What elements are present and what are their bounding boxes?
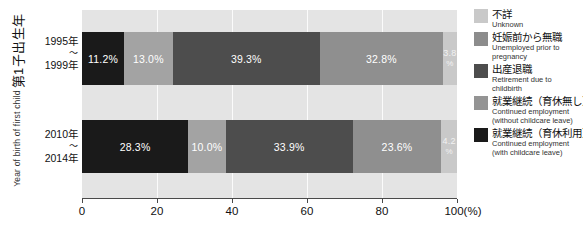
bar-segment: 23.6% xyxy=(353,120,442,173)
bar-segment: 33.9% xyxy=(226,120,353,173)
category-label-line2: 2014年 xyxy=(45,152,78,164)
category-label-line1: 2010年 xyxy=(45,128,78,140)
stacked-bar-chart: 第1子出生年 Year of birth of first child 1995… xyxy=(0,0,583,233)
legend-text: 妊娠前から無職Unemployed prior topregnancy xyxy=(492,31,562,61)
category-label-1995-1999: 1995年 〜 1999年 xyxy=(30,35,78,71)
legend-label-en: pregnancy xyxy=(492,52,562,61)
legend-swatch-icon xyxy=(474,9,488,23)
x-axis-tick-label: 0 xyxy=(79,205,85,217)
legend-item[interactable]: 妊娠前から無職Unemployed prior topregnancy xyxy=(474,31,583,61)
bar-segment-value: 4.2% xyxy=(443,137,456,156)
legend-label-en: Continued employment xyxy=(492,139,583,148)
x-axis-tick xyxy=(232,199,233,203)
legend-item[interactable]: 出産退職Retirement due tochildbirth xyxy=(474,63,583,93)
legend-label-jp: 不詳 xyxy=(492,8,523,20)
legend-label-en: childbirth xyxy=(492,84,552,93)
plot-area: 11.2%13.0%39.3%32.8%3.8% 28.3%10.0%33.9%… xyxy=(82,10,457,198)
legend-label-jp: 就業継続（育休利用） xyxy=(492,127,583,139)
bar-segment: 10.0% xyxy=(188,120,226,173)
legend-swatch-icon xyxy=(474,96,488,110)
legend-label-en: (without childcare leave) xyxy=(492,116,583,125)
percent-symbol: % xyxy=(443,147,456,157)
category-label-line1: 1995年 xyxy=(45,35,78,47)
legend-item[interactable]: 不詳Unknown xyxy=(474,8,583,29)
bar-segment-value: 13.0% xyxy=(133,53,164,65)
bar-segment-value: 23.6% xyxy=(382,141,413,153)
x-axis-tick-label: 80 xyxy=(376,205,389,217)
category-label-tilde: 〜 xyxy=(30,141,78,152)
category-label-2010-2014: 2010年 〜 2014年 xyxy=(30,128,78,164)
bar-segment-value: 11.2% xyxy=(88,53,118,65)
legend-label-jp: 妊娠前から無職 xyxy=(492,31,562,43)
legend-text: 不詳Unknown xyxy=(492,8,523,29)
legend-swatch-icon xyxy=(474,128,488,142)
x-axis-tick xyxy=(457,199,458,203)
x-axis-tick-label: 20 xyxy=(151,205,164,217)
bar-segment-value: 10.0% xyxy=(191,141,222,153)
bar-segment: 39.3% xyxy=(173,32,320,85)
legend-text: 就業継続（育休利用）Continued employment(with chil… xyxy=(492,127,583,157)
bar-segment-value: 28.3% xyxy=(120,141,151,153)
x-axis-tick-label: 100(%) xyxy=(444,205,481,217)
category-label-tilde: 〜 xyxy=(30,48,78,59)
bar-segment: 3.8% xyxy=(443,32,457,85)
x-axis-tick xyxy=(157,199,158,203)
category-label-line2: 1999年 xyxy=(45,59,78,71)
bar-segment-value: 3.8% xyxy=(443,49,456,68)
bar-segment-value: 32.8% xyxy=(366,53,397,65)
x-axis-tick-label: 60 xyxy=(301,205,314,217)
bar-segment: 28.3% xyxy=(82,120,188,173)
bar-segment-value: 33.9% xyxy=(274,141,305,153)
x-axis-tick xyxy=(82,199,83,203)
legend-item[interactable]: 就業継続（育休利用）Continued employment(with chil… xyxy=(474,127,583,157)
legend-label-en: (with childcare leave) xyxy=(492,148,583,157)
x-axis-tick-label: 40 xyxy=(226,205,239,217)
bar-segment: 4.2% xyxy=(441,120,457,173)
legend-label-en: Continued employment xyxy=(492,107,583,116)
bar-row-1995-1999: 11.2%13.0%39.3%32.8%3.8% xyxy=(82,32,457,85)
legend-label-en: Retirement due to xyxy=(492,75,552,84)
legend-label-jp: 出産退職 xyxy=(492,63,552,75)
legend-label-en: Unemployed prior to xyxy=(492,43,562,52)
x-axis-tick xyxy=(307,199,308,203)
y-axis-caption-en: Year of birth of first child xyxy=(12,90,22,186)
x-axis-tick xyxy=(382,199,383,203)
percent-symbol: % xyxy=(443,59,456,69)
legend-swatch-icon xyxy=(474,64,488,78)
y-axis-caption: 第1子出生年 Year of birth of first child xyxy=(0,0,34,200)
bar-segment: 13.0% xyxy=(124,32,173,85)
legend-swatch-icon xyxy=(474,32,488,46)
bar-row-2010-2014: 28.3%10.0%33.9%23.6%4.2% xyxy=(82,120,457,173)
legend-text: 就業継続（育休無し）Continued employment(without c… xyxy=(492,95,583,125)
x-axis-unit: (%) xyxy=(464,205,482,217)
legend-label-jp: 就業継続（育休無し） xyxy=(492,95,583,107)
bar-segment: 32.8% xyxy=(320,32,443,85)
y-axis-caption-jp: 第1子出生年 xyxy=(8,13,27,88)
legend-label-en: Unknown xyxy=(492,20,523,29)
legend: 不詳Unknown妊娠前から無職Unemployed prior topregn… xyxy=(474,8,583,159)
bar-segment-value: 39.3% xyxy=(231,53,262,65)
legend-text: 出産退職Retirement due tochildbirth xyxy=(492,63,552,93)
x-axis-line xyxy=(82,198,457,199)
legend-item[interactable]: 就業継続（育休無し）Continued employment(without c… xyxy=(474,95,583,125)
bar-segment: 11.2% xyxy=(82,32,124,85)
